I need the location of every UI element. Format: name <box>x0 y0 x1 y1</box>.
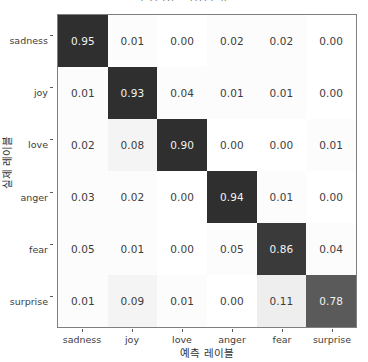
x-tick-label: sadness <box>63 334 102 345</box>
heatmap-cell: 0.94 <box>207 171 257 223</box>
x-tick-fear: fear <box>257 329 307 345</box>
confusion-matrix-figure: 혼동 행렬 - 감정 분류 실제 레이블 sadnessjoyloveanger… <box>0 0 368 362</box>
heatmap-cell-value: 0.86 <box>270 244 294 255</box>
x-tick-sadness: sadness <box>57 329 107 345</box>
y-tick-surprise: surprise <box>0 276 53 328</box>
heatmap-cell: 0.01 <box>157 275 207 327</box>
heatmap-cell: 0.01 <box>108 15 158 67</box>
heatmap-cell: 0.00 <box>306 15 356 67</box>
heatmap-cell-value: 0.01 <box>220 88 244 99</box>
heatmap-cell: 0.00 <box>157 223 207 275</box>
x-tick-mark <box>232 329 233 332</box>
heatmap-cell: 0.01 <box>58 67 108 119</box>
y-tick-label: love <box>28 139 50 150</box>
heatmap-cell: 0.01 <box>108 223 158 275</box>
x-tick-love: love <box>157 329 207 345</box>
heatmap-cell-value: 0.01 <box>71 296 95 307</box>
y-tick-joy: joy <box>0 66 53 118</box>
y-axis-tick-labels: sadnessjoyloveangerfearsurprise <box>0 14 53 328</box>
heatmap-cell: 0.02 <box>108 171 158 223</box>
heatmap-cell-value: 0.02 <box>71 140 95 151</box>
heatmap-cell-value: 0.00 <box>170 192 194 203</box>
heatmap-cell: 0.90 <box>157 119 207 171</box>
heatmap-cell-value: 0.01 <box>270 192 294 203</box>
y-tick-mark <box>50 192 53 193</box>
heatmap-cell: 0.00 <box>207 275 257 327</box>
y-tick-anger: anger <box>0 171 53 223</box>
x-tick-mark <box>82 329 83 332</box>
y-tick-label: fear <box>29 244 50 255</box>
y-tick-sadness: sadness <box>0 14 53 66</box>
y-tick-love: love <box>0 119 53 171</box>
heatmap-cell-value: 0.00 <box>170 244 194 255</box>
y-tick-mark <box>50 87 53 88</box>
y-tick-label: anger <box>20 192 50 203</box>
heatmap-cell: 0.05 <box>207 223 257 275</box>
y-tick-label: joy <box>34 87 50 98</box>
heatmap-cell-value: 0.01 <box>319 140 343 151</box>
heatmap-cell: 0.02 <box>58 119 108 171</box>
heatmap-cell-value: 0.03 <box>71 192 95 203</box>
heatmap-cell-value: 0.90 <box>170 140 194 151</box>
x-tick-label: anger <box>218 334 246 345</box>
heatmap-cell-value: 0.00 <box>270 140 294 151</box>
heatmap-cell-value: 0.78 <box>319 296 343 307</box>
x-tick-label: joy <box>125 334 139 345</box>
y-tick-mark <box>50 139 53 140</box>
heatmap-cell-value: 0.00 <box>220 296 244 307</box>
heatmap-cell-value: 0.01 <box>270 88 294 99</box>
heatmap-cell: 0.95 <box>58 15 108 67</box>
x-tick-mark <box>332 329 333 332</box>
x-tick-mark <box>132 329 133 332</box>
x-tick-label: fear <box>273 334 292 345</box>
heatmap-cell: 0.00 <box>306 67 356 119</box>
heatmap-cell-value: 0.00 <box>319 192 343 203</box>
heatmap-cell-value: 0.05 <box>71 244 95 255</box>
heatmap-cell: 0.09 <box>108 275 158 327</box>
heatmap-cell-value: 0.95 <box>71 36 95 47</box>
heatmap-cell-value: 0.05 <box>220 244 244 255</box>
y-tick-fear: fear <box>0 223 53 275</box>
heatmap-cell-value: 0.01 <box>121 36 145 47</box>
heatmap-cell: 0.00 <box>157 15 207 67</box>
heatmap-cell: 0.01 <box>257 67 307 119</box>
heatmap-cell-value: 0.02 <box>121 192 145 203</box>
x-tick-label: love <box>172 334 192 345</box>
heatmap-cell: 0.04 <box>306 223 356 275</box>
heatmap-cell: 0.93 <box>108 67 158 119</box>
heatmap-cell-value: 0.08 <box>121 140 145 151</box>
x-tick-mark <box>182 329 183 332</box>
heatmap-cell-value: 0.09 <box>121 296 145 307</box>
x-axis-title: 예측 레이블 <box>57 345 357 360</box>
heatmap-cell-value: 0.01 <box>121 244 145 255</box>
heatmap-grid: 0.950.010.000.020.020.000.010.930.040.01… <box>57 14 357 328</box>
heatmap-cell-value: 0.94 <box>220 192 244 203</box>
x-tick-mark <box>282 329 283 332</box>
chart-title: 혼동 행렬 - 감정 분류 <box>0 0 368 1</box>
heatmap-cell: 0.03 <box>58 171 108 223</box>
heatmap-cell: 0.04 <box>157 67 207 119</box>
heatmap-cell: 0.05 <box>58 223 108 275</box>
heatmap-cell-value: 0.11 <box>270 296 294 307</box>
heatmap-cell-value: 0.02 <box>220 36 244 47</box>
y-tick-mark <box>50 244 53 245</box>
heatmap-cell: 0.01 <box>257 171 307 223</box>
heatmap-cell: 0.01 <box>207 67 257 119</box>
heatmap-cell: 0.02 <box>207 15 257 67</box>
heatmap-cell-value: 0.04 <box>170 88 194 99</box>
heatmap-cell-value: 0.00 <box>319 88 343 99</box>
heatmap-cell: 0.08 <box>108 119 158 171</box>
heatmap-cell: 0.00 <box>306 171 356 223</box>
heatmap-cell-value: 0.00 <box>170 36 194 47</box>
heatmap-cell: 0.00 <box>207 119 257 171</box>
x-axis-tick-labels: sadnessjoyloveangerfearsurprise <box>57 329 357 345</box>
heatmap-cell: 0.01 <box>58 275 108 327</box>
y-tick-label: sadness <box>9 35 50 46</box>
x-tick-anger: anger <box>207 329 257 345</box>
heatmap-cell-value: 0.02 <box>270 36 294 47</box>
heatmap-cell: 0.02 <box>257 15 307 67</box>
x-tick-label: surprise <box>313 334 351 345</box>
y-tick-label: surprise <box>10 296 50 307</box>
heatmap-cell-value: 0.01 <box>71 88 95 99</box>
heatmap-cell-value: 0.04 <box>319 244 343 255</box>
